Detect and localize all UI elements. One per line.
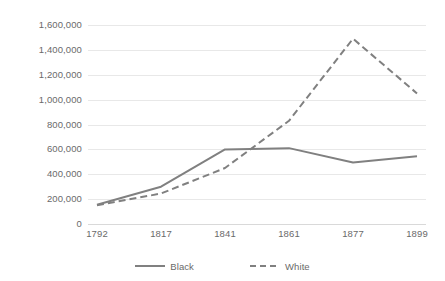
x-tick-label: 1899 bbox=[406, 228, 428, 239]
legend-item-white[interactable]: White bbox=[250, 261, 310, 272]
y-tick-label: 200,000 bbox=[47, 193, 82, 204]
x-axis-labels: 179218171841186118771899 bbox=[88, 228, 426, 244]
x-tick-label: 1841 bbox=[214, 228, 236, 239]
series-line-white bbox=[97, 39, 417, 206]
y-axis-labels: 0200,000400,000600,000800,0001,000,0001,… bbox=[0, 0, 82, 281]
chart-legend: BlackWhite bbox=[0, 256, 445, 276]
y-tick-label: 1,400,000 bbox=[39, 44, 82, 55]
x-tick-label: 1877 bbox=[342, 228, 364, 239]
x-tick-label: 1792 bbox=[86, 228, 108, 239]
legend-label: Black bbox=[170, 261, 194, 272]
legend-label: White bbox=[285, 261, 310, 272]
x-axis-line bbox=[88, 224, 426, 225]
y-tick-label: 1,200,000 bbox=[39, 69, 82, 80]
legend-swatch-white-icon bbox=[250, 261, 280, 271]
y-tick-label: 600,000 bbox=[47, 143, 82, 154]
y-tick-label: 1,000,000 bbox=[39, 94, 82, 105]
legend-swatch-black-icon bbox=[135, 261, 165, 271]
y-tick-label: 0 bbox=[77, 218, 82, 229]
line-chart: 0200,000400,000600,000800,0001,000,0001,… bbox=[0, 0, 445, 281]
plot-area bbox=[88, 25, 426, 224]
y-tick-label: 1,600,000 bbox=[39, 19, 82, 30]
series-lines bbox=[88, 25, 426, 224]
legend-item-black[interactable]: Black bbox=[135, 261, 194, 272]
x-tick-label: 1861 bbox=[278, 228, 300, 239]
x-tick-label: 1817 bbox=[150, 228, 172, 239]
y-tick-label: 800,000 bbox=[47, 119, 82, 130]
y-tick-label: 400,000 bbox=[47, 168, 82, 179]
